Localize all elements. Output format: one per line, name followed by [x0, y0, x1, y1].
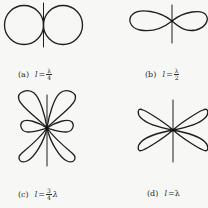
pattern-a [5, 3, 83, 47]
caption-tag: (b) [145, 70, 156, 79]
caption-equals: = [38, 190, 45, 199]
caption-fraction: 3 4 [46, 188, 52, 201]
radiation-pattern-diagram [0, 0, 208, 208]
caption-a: (a) l = λ 4 [18, 68, 52, 81]
fraction-denominator: 4 [47, 195, 51, 201]
caption-variable: l [35, 190, 38, 199]
caption-equals: = [39, 70, 46, 79]
caption-variable: l [35, 70, 38, 79]
caption-d: (d) l =λ [147, 189, 180, 198]
caption-b: (b) l = λ 2 [145, 68, 179, 81]
caption-tag: (c) [18, 190, 29, 199]
caption-tag: (a) [18, 70, 29, 79]
caption-fraction: λ 4 [46, 68, 52, 81]
pattern-b [130, 5, 207, 43]
caption-c: (c) l = 3 4 λ [18, 188, 58, 201]
caption-equals: = [166, 70, 173, 79]
fraction-denominator: 4 [47, 75, 51, 81]
caption-variable: l [162, 70, 165, 79]
caption-variable: l [164, 189, 167, 198]
caption-suffix: λ [53, 190, 58, 199]
caption-equals: =λ [168, 189, 180, 198]
fraction-denominator: 2 [175, 75, 179, 81]
caption-tag: (d) [147, 189, 158, 198]
caption-fraction: λ 2 [174, 68, 180, 81]
